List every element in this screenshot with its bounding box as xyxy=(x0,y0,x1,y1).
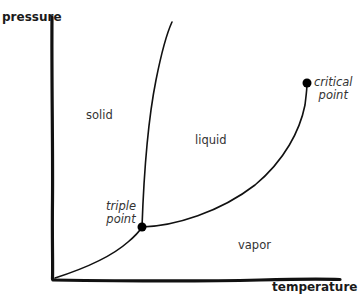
pressure-axis xyxy=(52,17,53,279)
diagram-canvas xyxy=(0,0,362,301)
pressure-axis-label: pressure xyxy=(2,10,62,24)
vaporization-curve xyxy=(142,83,307,227)
triple-point-label: triple point xyxy=(106,200,136,226)
vapor-region-label: vapor xyxy=(238,238,271,252)
critical-point-label: critical point xyxy=(314,76,353,102)
triple-point-label-line2: point xyxy=(106,213,136,226)
critical-point-marker xyxy=(303,79,312,88)
fusion-curve xyxy=(142,22,172,227)
solid-region-label: solid xyxy=(86,108,113,122)
triple-point-marker xyxy=(138,223,147,232)
liquid-region-label: liquid xyxy=(195,133,226,147)
phase-diagram: pressure temperature solid liquid vapor … xyxy=(0,0,362,301)
temperature-axis-label: temperature xyxy=(272,280,357,294)
sublimation-curve xyxy=(55,227,142,278)
critical-point-label-line2: point xyxy=(314,89,353,102)
